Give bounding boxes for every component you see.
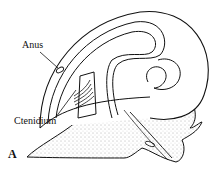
gastropod-diagram: Anus Ctenidium A <box>0 0 220 170</box>
label-anus: Anus <box>22 40 43 50</box>
panel-label: A <box>8 148 17 160</box>
diagram-drawing <box>0 0 220 170</box>
anus-leader <box>40 52 58 68</box>
label-ctenidium: Ctenidium <box>14 116 56 126</box>
